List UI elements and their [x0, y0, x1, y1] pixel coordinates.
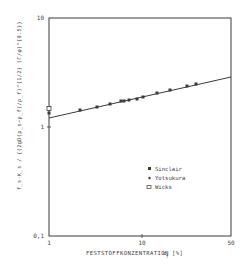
- x-axis-label-text: FESTSTOFFKONZENTRATION: [86, 250, 169, 256]
- x-tick-1: 1: [47, 239, 51, 246]
- y-tick-10: 10: [37, 14, 45, 21]
- x-tick-50: 50: [227, 239, 235, 246]
- sinclair-points: [79, 83, 198, 112]
- chart: 10 1 0,1 1 10 50 FESTSTOFFKONZENTRATION …: [0, 0, 243, 268]
- data-point: [156, 92, 159, 95]
- data-point: [96, 106, 99, 109]
- data-point: [109, 103, 112, 106]
- y-tick-0-1: 0,1: [33, 232, 44, 239]
- data-point: [195, 83, 198, 86]
- data-point: [123, 100, 126, 103]
- fit-line: [49, 77, 231, 118]
- data-point: [120, 100, 123, 103]
- plot-frame: [49, 18, 231, 236]
- y-axis-ticks: 10 1 0,1: [33, 14, 51, 239]
- x-tick-10: 10: [138, 239, 146, 246]
- legend-marker-sinclair: [148, 167, 151, 170]
- data-point: [169, 89, 172, 92]
- x-axis-subscript: T: [166, 254, 169, 259]
- legend-marker-yotsukura: [148, 177, 150, 179]
- legend-label-sinclair: Sinclair: [155, 166, 183, 172]
- x-axis-unit: [%]: [172, 250, 183, 256]
- wicks-point-x1: [47, 107, 51, 111]
- data-point: [136, 98, 139, 101]
- legend: Sinclair Yotsukura Wicks: [147, 166, 185, 191]
- legend-label-yotsukura: Yotsukura: [155, 175, 185, 181]
- legend-marker-wicks: [147, 186, 151, 189]
- data-point: [79, 109, 82, 112]
- data-point: [186, 85, 189, 88]
- x-axis-label: FESTSTOFFKONZENTRATION c T [%]: [86, 250, 183, 259]
- data-point: [128, 99, 131, 102]
- legend-label-wicks: Wicks: [155, 184, 172, 190]
- y-tick-1: 1: [40, 123, 44, 130]
- y-axis-label: f_s·K_s / {(2gD(ρ_s−ρ_f)/ρ_f)^{1/2} (Γ/φ…: [16, 21, 23, 190]
- sinclair-point-x1: [48, 112, 51, 115]
- data-point: [142, 96, 145, 99]
